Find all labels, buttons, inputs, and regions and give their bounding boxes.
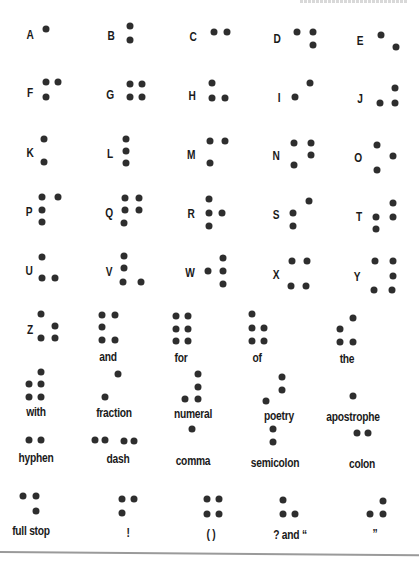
braille-dot-icon [279,387,286,394]
braille-label: numeral [174,407,212,421]
braille-dot-icon [38,394,45,401]
braille-dot-icon [365,430,372,437]
braille-label: Y [354,269,361,284]
braille-dot-icon [374,167,381,174]
braille-dot-icon [372,258,379,265]
braille-dot-icon [390,200,397,207]
braille-dot-icon [350,339,357,346]
braille-dot-icon [38,311,45,318]
braille-dot-icon [38,335,45,342]
braille-label: M [187,147,195,162]
braille-dot-icon [308,152,315,159]
braille-dot-icon [207,160,214,167]
braille-label: X [273,267,280,282]
braille-dot-icon [206,223,213,230]
braille-label: G [106,87,114,102]
braille-dot-icon [119,496,126,503]
braille-dot-icon [249,325,256,332]
braille-dot-icon [122,207,129,214]
braille-chart-page: ABCDEFGHIJKLMNOPQRSTUVWXYZandforofthewit… [0,0,419,565]
braille-dot-icon [310,42,317,49]
braille-dot-icon [173,313,180,320]
braille-dot-icon [102,394,109,401]
braille-dot-icon [173,338,180,345]
braille-label: semicolon [251,456,299,470]
braille-dot-icon [290,223,297,230]
braille-dot-icon [52,323,59,330]
braille-label: ” [373,527,378,541]
braille-dot-icon [99,312,106,319]
braille-dot-icon [127,37,134,44]
braille-dot-icon [189,426,196,433]
braille-label: H [188,88,195,103]
braille-label: R [187,206,194,221]
braille-dot-icon [92,437,99,444]
braille-dot-icon [294,29,301,36]
bottom-divider-line [0,551,419,556]
braille-dot-icon [115,371,122,378]
braille-dot-icon [209,95,216,102]
braille-dot-icon [380,498,387,505]
braille-dot-icon [52,275,59,282]
braille-dot-icon [373,226,380,233]
braille-label: comma [176,454,211,468]
braille-dot-icon [304,258,311,265]
braille-dot-icon [270,439,277,446]
braille-label: hyphen [19,451,54,465]
braille-dot-icon [204,511,211,518]
braille-dot-icon [261,325,268,332]
braille-dot-icon [102,437,109,444]
braille-label: F [27,85,33,100]
braille-dot-icon [123,160,130,167]
braille-dot-icon [289,258,296,265]
braille-dot-icon [389,287,396,294]
braille-dot-icon [43,26,50,33]
braille-dot-icon [26,394,33,401]
braille-dot-icon [33,493,40,500]
braille-dot-icon [393,44,400,51]
braille-label: ? and “ [273,528,307,542]
braille-dot-icon [123,136,130,143]
braille-dot-icon [20,493,27,500]
braille-dot-icon [249,338,256,345]
braille-dot-icon [121,438,128,445]
braille-dot-icon [249,311,256,318]
braille-label: I [278,90,281,105]
braille-dot-icon [222,95,229,102]
braille-dot-icon [380,511,387,518]
braille-dot-icon [99,324,106,331]
braille-label: O [354,150,362,165]
braille-label: C [189,29,196,44]
braille-label: colon [349,457,375,471]
braille-dot-icon [123,148,130,155]
braille-dot-icon [43,94,50,101]
braille-dot-icon [204,496,211,503]
braille-dot-icon [206,196,213,203]
braille-dot-icon [195,371,202,378]
braille-dot-icon [205,268,212,275]
braille-dot-icon [377,100,384,107]
braille-dot-icon [374,142,381,149]
braille-dot-icon [39,207,46,214]
braille-dot-icon [120,279,127,286]
braille-dot-icon [41,136,48,143]
braille-dot-icon [350,393,357,400]
braille-dot-icon [308,140,315,147]
braille-label: J [357,91,362,106]
braille-dot-icon [127,94,134,101]
braille-label: the [340,352,355,366]
braille-label: A [26,27,33,42]
braille-dot-icon [390,273,397,280]
braille-label: K [26,145,33,160]
braille-dot-icon [263,398,270,405]
braille-label: fraction [96,406,132,420]
braille-label: of [252,351,261,365]
braille-dot-icon [38,437,45,444]
braille-label: U [25,263,32,278]
braille-dot-icon [43,79,50,86]
braille-label: Z [27,322,33,337]
braille-dot-icon [121,220,128,227]
braille-label: poetry [264,409,294,423]
braille-label: P [26,204,33,219]
braille-dot-icon [337,339,344,346]
